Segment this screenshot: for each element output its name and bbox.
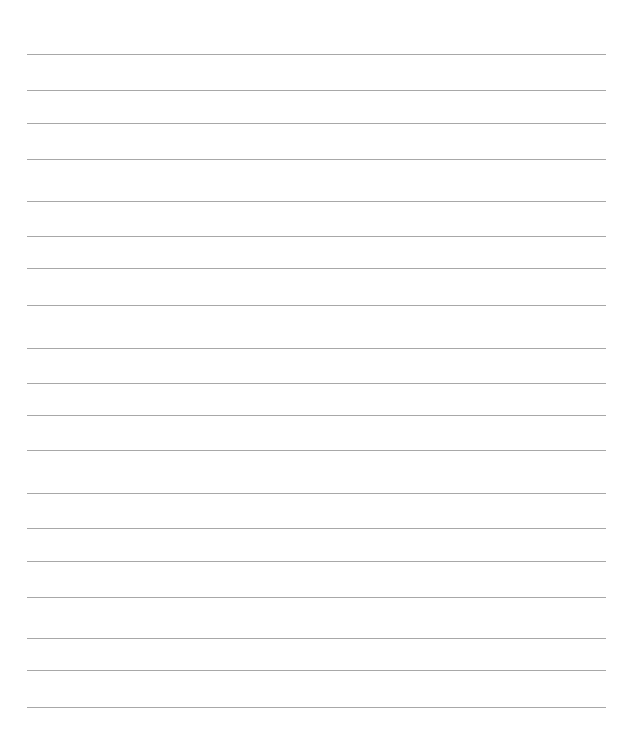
ruled-line: [27, 54, 606, 55]
lined-paper-page: [0, 0, 632, 754]
ruled-line: [27, 201, 606, 202]
ruled-line: [27, 348, 606, 349]
ruled-line: [27, 450, 606, 451]
ruled-line: [27, 305, 606, 306]
ruled-line: [27, 415, 606, 416]
ruled-line: [27, 670, 606, 671]
ruled-line: [27, 90, 606, 91]
ruled-line: [27, 159, 606, 160]
ruled-line: [27, 268, 606, 269]
ruled-line: [27, 561, 606, 562]
ruled-line: [27, 493, 606, 494]
ruled-line: [27, 638, 606, 639]
ruled-line: [27, 528, 606, 529]
ruled-line: [27, 707, 606, 708]
ruled-line: [27, 383, 606, 384]
ruled-line: [27, 123, 606, 124]
ruled-line: [27, 597, 606, 598]
ruled-line: [27, 236, 606, 237]
